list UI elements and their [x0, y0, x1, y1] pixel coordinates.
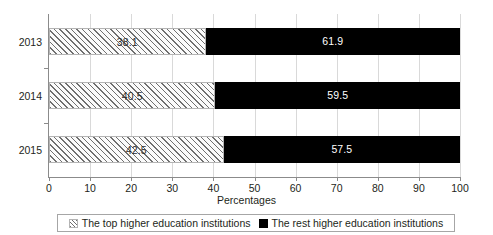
- bar-segment-rest-institutions: 61.9: [206, 28, 460, 55]
- gridline: [460, 14, 461, 177]
- stacked-bar-chart: 201320142015 0102030405060708090100 Perc…: [0, 0, 493, 235]
- x-tick-label: 40: [193, 181, 233, 195]
- y-tick-label: 2015: [2, 143, 42, 157]
- y-tick-mark: [44, 123, 49, 124]
- legend-item-top-institutions[interactable]: The top higher education institutions: [69, 217, 251, 229]
- x-tick-label: 20: [111, 181, 151, 195]
- hatch-swatch-icon: [69, 219, 78, 228]
- x-tick-label: 90: [399, 181, 439, 195]
- y-tick-label: 2014: [2, 89, 42, 103]
- legend-item-rest-institutions[interactable]: The rest higher education institutions: [259, 217, 444, 229]
- x-tick-label: 10: [70, 181, 110, 195]
- y-tick-mark: [44, 68, 49, 69]
- x-tick-label: 30: [152, 181, 192, 195]
- bar-value-label: 40.5: [50, 83, 214, 110]
- bar-value-label: 61.9: [206, 28, 460, 55]
- bar-segment-rest-institutions: 57.5: [224, 136, 460, 163]
- x-tick-label: 50: [235, 181, 275, 195]
- bar-segment-top-institutions: 42.5: [49, 136, 224, 163]
- chart-legend: The top higher education institutions Th…: [57, 214, 455, 232]
- x-axis-title: Percentages: [0, 194, 493, 206]
- x-tick-label: 80: [358, 181, 398, 195]
- bar-segment-top-institutions: 40.5: [49, 82, 215, 109]
- x-tick-label: 60: [276, 181, 316, 195]
- x-tick-label: 100: [440, 181, 480, 195]
- x-tick-label: 0: [29, 181, 69, 195]
- bar-value-label: 57.5: [224, 136, 460, 163]
- legend-label: The top higher education institutions: [82, 217, 251, 229]
- x-tick-label: 70: [317, 181, 357, 195]
- y-tick-label: 2013: [2, 35, 42, 49]
- bar-value-label: 59.5: [215, 82, 460, 109]
- bar-segment-top-institutions: 38.1: [49, 28, 206, 55]
- solid-swatch-icon: [259, 219, 268, 228]
- bar-segment-rest-institutions: 59.5: [215, 82, 460, 109]
- bar-value-label: 38.1: [50, 29, 205, 56]
- legend-label: The rest higher education institutions: [272, 217, 444, 229]
- bar-value-label: 42.5: [50, 137, 223, 164]
